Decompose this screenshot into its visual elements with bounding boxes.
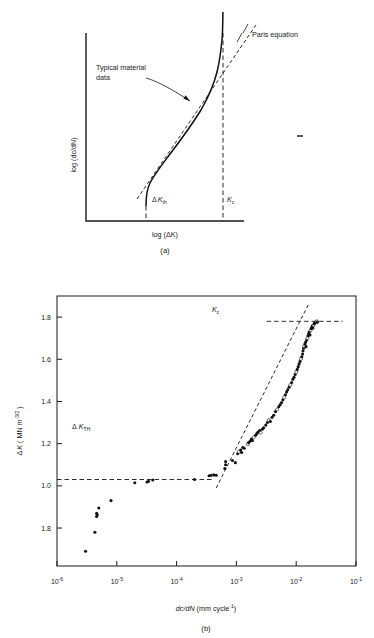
- xtick-label: 10-5: [111, 576, 123, 586]
- ylabel-close: ): [15, 406, 24, 410]
- panel-a-axes: [86, 33, 244, 221]
- data-point: [234, 461, 237, 464]
- panel-a-caption: (a): [160, 246, 170, 255]
- panel-b-xtick-group: 10-610-510-410-310-210-1: [51, 561, 362, 585]
- panel-b-caption: (b): [201, 624, 211, 633]
- typical-material-data-arrowhead: [184, 95, 191, 101]
- data-point: [308, 333, 311, 336]
- ylabel-exponent: -3/2: [14, 411, 20, 420]
- data-point: [84, 550, 87, 553]
- delta-k-th-label: ΔKth: [152, 195, 167, 205]
- panel-b-ylabel: ΔK ( MN m-3/2 ): [14, 406, 24, 455]
- xtick-label: 10-6: [51, 576, 63, 586]
- data-point: [224, 463, 227, 466]
- panel-b-plot-frame: [57, 296, 356, 566]
- data-point: [280, 401, 283, 404]
- xtick-label: 10-2: [290, 576, 302, 586]
- panel-a-ylabel: log (dc/dN): [69, 137, 78, 172]
- xlabel-units: (mm cycle: [195, 604, 230, 613]
- typical-material-data-label-line2: data: [96, 73, 110, 82]
- paris-leader-1: [243, 24, 248, 33]
- data-point: [243, 447, 246, 450]
- data-point: [133, 481, 136, 484]
- data-point: [210, 474, 213, 477]
- paris-equation-label: Paris equation: [252, 30, 298, 39]
- ytick-label: 1.0: [41, 482, 51, 489]
- xtick-label: 10-1: [350, 576, 362, 586]
- data-point: [296, 368, 299, 371]
- paris-equation-dashed-line: [137, 25, 256, 199]
- data-point: [304, 345, 307, 348]
- data-point: [276, 408, 279, 411]
- data-point: [97, 506, 100, 509]
- ylabel-open: ( MN m: [15, 419, 24, 445]
- xtick-label: 10-3: [230, 576, 242, 586]
- data-point: [262, 426, 265, 429]
- data-point: [224, 460, 227, 463]
- data-point: [269, 420, 272, 423]
- panel-a-svg: Paris equation Typical material data ΔKt…: [0, 0, 374, 262]
- delta-k-th-delta-b: Δ: [72, 422, 77, 431]
- reference-line-paris-fit-line: [216, 304, 308, 488]
- data-point: [297, 365, 300, 368]
- typical-material-data-arrow-line: [146, 78, 190, 101]
- ytick-label: 1.2: [41, 440, 51, 447]
- data-point: [316, 321, 319, 324]
- ytick-label: 1.8: [41, 525, 51, 532]
- data-point: [311, 327, 314, 330]
- panel-b-ytick-group: 1.81.61.41.21.01.8: [41, 314, 62, 532]
- k-c-annotation-b: Kc: [212, 305, 220, 315]
- paris-leader-2: [237, 33, 242, 42]
- data-point: [300, 355, 303, 358]
- ytick-label: 1.4: [41, 398, 51, 405]
- ytick-label: 1.8: [41, 314, 51, 321]
- xtick-label: 10-4: [170, 576, 182, 586]
- data-point: [301, 352, 304, 355]
- stray-scan-mark: [297, 135, 303, 137]
- data-point: [151, 478, 154, 481]
- data-point: [259, 431, 262, 434]
- k-c-label-a: Kc: [227, 195, 235, 205]
- delta-k-th-subscript-b: TH: [84, 426, 91, 432]
- data-point: [223, 467, 226, 470]
- panel-b-scatter: 1.81.61.41.21.01.8 10-610-510-410-310-21…: [0, 286, 374, 638]
- delta-k-th-subscript: th: [163, 199, 167, 205]
- ytick-label: 1.6: [41, 356, 51, 363]
- data-point: [215, 474, 218, 477]
- panel-b-xlabel: dc/dN (mm cycle-1): [176, 603, 236, 613]
- xlabel-paren: ): [234, 604, 236, 613]
- data-point: [109, 499, 112, 502]
- typical-material-data-label-line1: Typical material: [96, 63, 146, 72]
- data-point: [251, 439, 254, 442]
- k-c-subscript-a: c: [232, 199, 235, 205]
- data-point: [240, 451, 243, 454]
- data-point: [193, 478, 196, 481]
- data-point: [292, 376, 295, 379]
- panel-b-reference-lines: [57, 304, 343, 488]
- data-point: [93, 531, 96, 534]
- delta-k-th-annotation-b: ΔKTH: [72, 422, 91, 432]
- data-point: [147, 480, 150, 483]
- data-point: [231, 459, 234, 462]
- k-c-subscript-b: c: [217, 309, 220, 315]
- delta-k-th-delta: Δ: [152, 195, 157, 204]
- data-point: [290, 381, 293, 384]
- data-point: [284, 393, 287, 396]
- panel-a-schematic: Paris equation Typical material data ΔKt…: [0, 0, 374, 262]
- data-point: [272, 414, 275, 417]
- ylabel-delta: Δ: [15, 451, 24, 456]
- data-point: [286, 388, 289, 391]
- data-point: [95, 512, 98, 515]
- typical-material-data-curve: [146, 12, 223, 206]
- panel-b-svg: 1.81.61.41.21.01.8 10-610-510-410-310-21…: [0, 286, 374, 638]
- panel-a-xlabel: log (ΔK): [152, 230, 178, 239]
